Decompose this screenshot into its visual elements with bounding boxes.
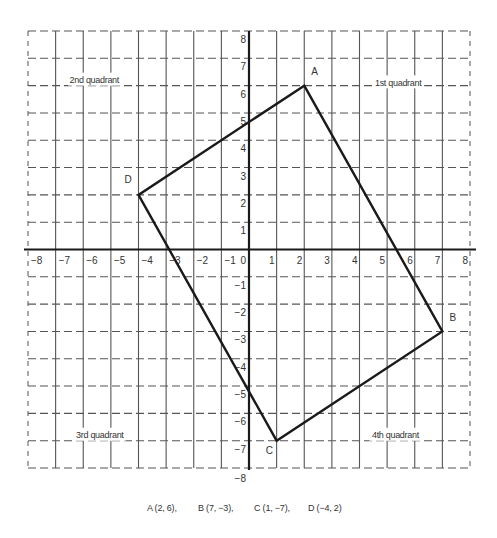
x-tick-label: 4 <box>352 255 358 266</box>
y-tick-label: 2 <box>240 198 246 209</box>
y-tick-label: −1 <box>235 280 247 291</box>
axes <box>24 31 476 470</box>
quadrant-label: 3rd quadrant <box>76 430 124 440</box>
vertex-label-d: D <box>125 174 132 185</box>
x-tick-label: 7 <box>435 255 441 266</box>
quadrant-label: 2nd quadrant <box>70 75 120 85</box>
coordinate-plane: 2nd quadrant1st quadrant3rd quadrant4th … <box>0 0 497 500</box>
y-tick-label: −5 <box>235 389 247 400</box>
quadrant-label: 1st quadrant <box>375 78 422 88</box>
polygon-abcd <box>139 86 443 441</box>
caption-point-a: A (2, 6), <box>147 503 177 513</box>
x-tick-label: −5 <box>114 255 126 266</box>
y-tick-label: −6 <box>235 416 247 427</box>
y-tick-label: −2 <box>235 307 247 318</box>
x-tick-label: −7 <box>59 255 71 266</box>
y-tick-label: 3 <box>240 171 246 182</box>
x-tick-label: −8 <box>31 255 43 266</box>
coordinates-caption: A (2, 6), B (7, −3), C (1, −7), D (−4, 2… <box>0 503 497 519</box>
vertex-label-a: A <box>311 66 318 77</box>
vertex-label-c: C <box>266 445 273 456</box>
x-tick-label: 1 <box>269 255 275 266</box>
x-tick-label: 6 <box>407 255 413 266</box>
y-tick-label: 4 <box>240 143 246 154</box>
x-tick-label: −4 <box>142 255 154 266</box>
vertex-label-b: B <box>449 312 456 323</box>
caption-point-b: B (7, −3), <box>198 503 233 513</box>
x-tick-label: −2 <box>197 255 209 266</box>
x-tick-label: −6 <box>86 255 98 266</box>
y-tick-label: 7 <box>240 61 246 72</box>
x-tick-label: 3 <box>324 255 330 266</box>
quadrilateral-abcd <box>139 86 443 441</box>
y-tick-label: 6 <box>240 89 246 100</box>
x-tick-label: 5 <box>380 255 386 266</box>
y-tick-label: −3 <box>235 334 247 345</box>
x-tick-label: 2 <box>297 255 303 266</box>
caption-point-c: C (1, −7), <box>254 503 290 513</box>
y-tick-label: −8 <box>235 473 247 484</box>
y-tick-label: 8 <box>240 34 246 45</box>
caption-point-d: D (−4, 2) <box>308 503 341 513</box>
y-tick-label: −7 <box>235 444 247 455</box>
x-tick-label: 8 <box>462 255 468 266</box>
origin-label: 0 <box>240 255 246 266</box>
x-tick-label: −1 <box>224 255 236 266</box>
quadrant-label: 4th quadrant <box>372 430 420 440</box>
y-tick-label: 1 <box>240 225 246 236</box>
